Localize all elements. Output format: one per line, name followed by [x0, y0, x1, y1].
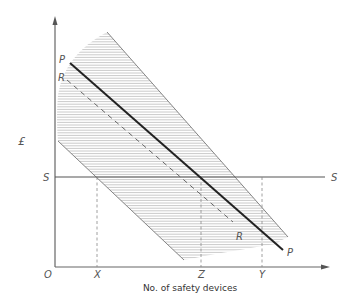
- label-r-end: R: [236, 231, 243, 242]
- diagram-canvas: P R R P S S £ O X Z Y No. of safety devi…: [0, 0, 353, 305]
- label-s-left: S: [43, 172, 50, 183]
- origin-label: O: [44, 269, 52, 280]
- band-upper-edge: [107, 32, 288, 237]
- y-axis-arrow-icon: [53, 16, 58, 25]
- tick-label-x: X: [93, 269, 102, 280]
- y-axis-label: £: [18, 135, 26, 148]
- label-p-end: P: [287, 247, 294, 258]
- x-axis-label: No. of safety devices: [143, 283, 238, 293]
- tick-label-y: Y: [259, 269, 266, 280]
- label-s-right: S: [331, 172, 338, 183]
- x-axis-arrow-icon: [321, 265, 330, 270]
- label-r-start: R: [58, 72, 65, 83]
- label-p-start: P: [59, 54, 66, 65]
- tick-label-z: Z: [197, 269, 206, 280]
- hatched-band: [50, 34, 300, 260]
